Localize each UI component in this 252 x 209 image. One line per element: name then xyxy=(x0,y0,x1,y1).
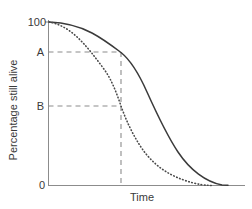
y-tick-label-0: 0 xyxy=(39,179,45,191)
y-tick-label-100: 100 xyxy=(28,16,46,28)
chart-canvas: 100 A B 0 Percentage still alive Time xyxy=(0,0,252,209)
dotted-survival-curve xyxy=(49,22,212,186)
x-axis-title: Time xyxy=(130,191,154,203)
y-axis-title: Percentage still alive xyxy=(7,60,19,161)
y-tick-label-a: A xyxy=(37,46,45,58)
survival-curve-figure: 100 A B 0 Percentage still alive Time xyxy=(0,0,252,209)
y-tick-label-b: B xyxy=(37,100,44,112)
solid-survival-curve xyxy=(49,22,228,185)
